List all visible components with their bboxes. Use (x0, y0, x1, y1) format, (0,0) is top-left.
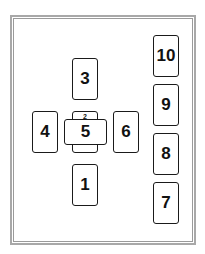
card-1-label: 1 (80, 175, 89, 195)
card-3: 3 (72, 58, 98, 100)
card-10-label: 10 (157, 46, 176, 66)
card-10: 10 (153, 35, 179, 77)
card-4: 4 (32, 111, 58, 153)
card-6-label: 6 (121, 122, 130, 142)
card-5: 5 (64, 119, 107, 145)
card-4-label: 4 (40, 122, 49, 142)
card-6: 6 (113, 111, 139, 153)
card-1: 1 (72, 164, 98, 206)
card-3-label: 3 (80, 69, 89, 89)
card-9-label: 9 (161, 95, 170, 115)
card-8-label: 8 (161, 144, 170, 164)
card-8: 8 (153, 133, 179, 175)
card-5-label: 5 (81, 122, 90, 142)
card-7-label: 7 (161, 193, 170, 213)
card-9: 9 (153, 84, 179, 126)
card-7: 7 (153, 182, 179, 224)
